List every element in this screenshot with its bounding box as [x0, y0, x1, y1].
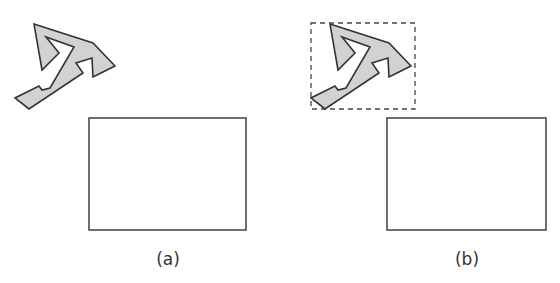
target-rectangle-b — [387, 118, 546, 230]
panel-label-a: (a) — [156, 251, 180, 268]
target-rectangle-a — [89, 118, 246, 230]
diagram-canvas — [0, 0, 560, 283]
hook-shape-a — [15, 24, 115, 109]
panel-b — [311, 23, 546, 230]
panel-a — [15, 24, 246, 230]
panel-label-b: (b) — [455, 251, 479, 268]
hook-shape-b — [311, 24, 411, 109]
